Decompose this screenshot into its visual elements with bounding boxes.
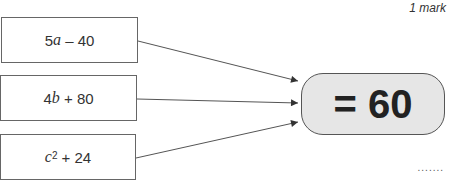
arrow-1 bbox=[138, 41, 298, 81]
expr-var: c bbox=[45, 148, 52, 166]
expr-var: a bbox=[53, 31, 61, 49]
expr-rest: + 24 bbox=[57, 149, 91, 166]
expr-coef: 5 bbox=[45, 32, 53, 49]
expr-rest: + 80 bbox=[60, 90, 94, 107]
expr-coef: 4 bbox=[43, 90, 51, 107]
expression-box-1: 5a – 40 bbox=[1, 17, 138, 63]
expr-rest: – 40 bbox=[61, 32, 94, 49]
result-box: = 60 bbox=[301, 73, 445, 135]
expression-box-3: c2 + 24 bbox=[0, 134, 136, 180]
expr-exponent: 2 bbox=[52, 150, 58, 161]
expr-var: b bbox=[52, 89, 60, 107]
arrow-3 bbox=[136, 122, 298, 158]
arrow-2 bbox=[137, 99, 298, 103]
answer-line[interactable]: ....... bbox=[418, 162, 444, 173]
expression-box-2: 4b + 80 bbox=[0, 75, 137, 121]
